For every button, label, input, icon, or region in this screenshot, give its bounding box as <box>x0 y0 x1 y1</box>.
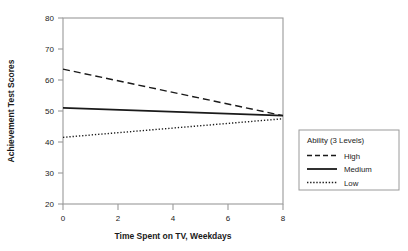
y-tick-label-60: 60 <box>45 76 54 85</box>
legend-label-low: Low <box>344 179 359 188</box>
x-axis-title: Time Spent on TV, Weekdays <box>115 231 232 241</box>
y-tick-label-70: 70 <box>45 45 54 54</box>
chart-figure: 80 70 60 50 40 30 20 0 2 4 6 8 Time Spen… <box>0 0 408 251</box>
y-tick-label-20: 20 <box>45 200 54 209</box>
y-tick-label-50: 50 <box>45 107 54 116</box>
x-tick-label-4: 4 <box>171 214 176 223</box>
x-tick-label-8: 8 <box>281 214 286 223</box>
x-tick-label-0: 0 <box>61 214 66 223</box>
y-axis-title: Achievement Test Scores <box>6 59 16 162</box>
legend-title: Ability (3 Levels) <box>307 136 365 145</box>
y-tick-label-80: 80 <box>45 14 54 23</box>
y-tick-label-40: 40 <box>45 138 54 147</box>
legend: Ability (3 Levels) High Medium Low <box>299 130 399 190</box>
x-tick-label-2: 2 <box>116 214 121 223</box>
legend-label-medium: Medium <box>344 165 372 174</box>
legend-label-high: High <box>344 152 360 161</box>
x-tick-label-6: 6 <box>226 214 231 223</box>
y-tick-label-30: 30 <box>45 169 54 178</box>
line-chart: 80 70 60 50 40 30 20 0 2 4 6 8 Time Spen… <box>0 0 408 251</box>
